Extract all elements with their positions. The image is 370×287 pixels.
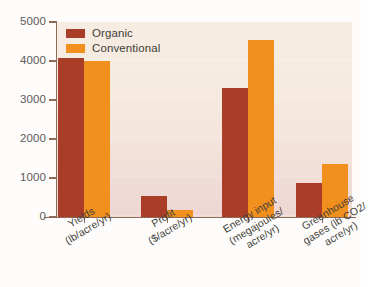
bar-organic-2	[222, 88, 248, 217]
y-tick-mark	[49, 99, 57, 100]
y-tick-mark	[49, 138, 57, 139]
bar-organic-0	[58, 58, 84, 217]
bar-conventional-2	[248, 40, 274, 217]
bar-conventional-0	[84, 61, 110, 217]
legend-swatch-organic	[66, 29, 85, 38]
legend-label-organic: Organic	[92, 27, 133, 39]
legend-label-conventional: Conventional	[92, 42, 160, 54]
y-tick-label: 1000	[2, 171, 46, 183]
y-tick-label: 2000	[2, 132, 46, 144]
y-tick-mark	[49, 177, 57, 178]
y-tick-label: 0	[2, 210, 46, 222]
legend-item-conventional: Conventional	[66, 42, 160, 54]
legend-swatch-conventional	[66, 44, 85, 53]
legend-item-organic: Organic	[66, 27, 160, 39]
y-tick-mark	[49, 60, 57, 61]
y-tick-label: 3000	[2, 93, 46, 105]
y-tick-label: 4000	[2, 54, 46, 66]
chart-legend: Organic Conventional	[66, 27, 160, 54]
y-tick-mark	[49, 216, 57, 217]
y-tick-mark	[49, 21, 57, 22]
y-tick-label: 5000	[2, 15, 46, 27]
